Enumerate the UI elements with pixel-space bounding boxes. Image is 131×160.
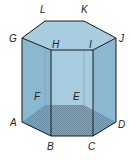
label-I: I xyxy=(89,39,92,50)
label-J: J xyxy=(118,33,125,44)
label-D: D xyxy=(118,119,125,130)
side-face-IJDC xyxy=(93,38,116,136)
label-E: E xyxy=(73,91,80,102)
label-B: B xyxy=(47,141,54,152)
hexagonal-prism-diagram: L K G J H I F E A D B C xyxy=(0,0,131,160)
label-K: K xyxy=(81,4,89,15)
label-C: C xyxy=(88,141,96,152)
side-face-HICB xyxy=(51,50,93,136)
label-G: G xyxy=(9,33,17,44)
side-face-GHBA xyxy=(22,38,51,136)
label-A: A xyxy=(9,117,17,128)
label-H: H xyxy=(52,39,60,50)
label-L: L xyxy=(40,4,46,15)
label-F: F xyxy=(34,91,41,102)
